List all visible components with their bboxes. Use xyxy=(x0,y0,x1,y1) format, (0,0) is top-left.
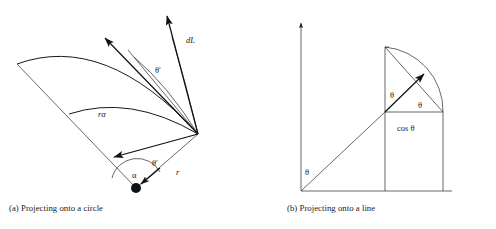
ray-dL xyxy=(167,16,198,134)
label-dL: dL xyxy=(186,35,195,45)
inner-arc-r-alpha xyxy=(69,107,198,134)
label-theta-axis: θ xyxy=(305,167,309,177)
sector-left-edge xyxy=(17,64,136,188)
arrow-to-source-dot xyxy=(141,168,160,184)
label-theta-arc: θ xyxy=(418,100,422,110)
panel-a-rays xyxy=(105,16,198,157)
label-r-alpha: rα xyxy=(98,109,106,119)
panel-a-diagram: dL θ′ rα θ′ α r θ xyxy=(0,0,496,229)
panel-b-axes xyxy=(301,23,452,191)
figure-root: dL θ′ rα θ′ α r θ xyxy=(0,0,496,229)
label-alpha: α xyxy=(132,170,137,180)
label-theta-prime-lower: θ′ xyxy=(152,158,158,168)
panel-a-sector xyxy=(17,56,198,188)
label-theta-prime-upper: θ′ xyxy=(155,65,161,75)
label-r: r xyxy=(176,167,180,177)
caption-panel-a: (a) Projecting onto a circle xyxy=(9,203,103,213)
label-cos-theta: cos θ xyxy=(397,123,415,133)
ray-middle xyxy=(105,38,198,134)
source-point-dot xyxy=(131,183,141,193)
diagonal-lower xyxy=(301,112,385,191)
ray-left xyxy=(114,134,198,157)
caption-panel-b: (b) Projecting onto a line xyxy=(287,203,375,213)
label-theta-vertical: θ xyxy=(390,90,394,100)
panel-b-box xyxy=(385,47,443,191)
